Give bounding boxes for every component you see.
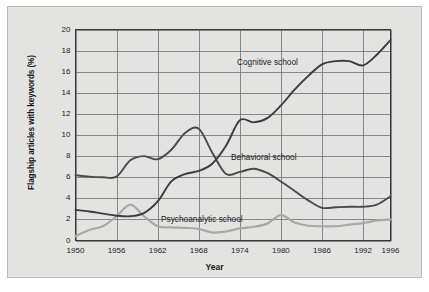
series-label-behavioral: Behavioral school xyxy=(231,152,297,162)
data-series xyxy=(76,40,391,236)
plot-canvas xyxy=(0,0,429,292)
chart-figure: Flagship articles with keywords (%) Year… xyxy=(0,0,429,292)
series-label-psychoanalytic: Psychoanalytic school xyxy=(161,214,243,224)
series-label-cognitive: Cognitive school xyxy=(237,57,298,67)
